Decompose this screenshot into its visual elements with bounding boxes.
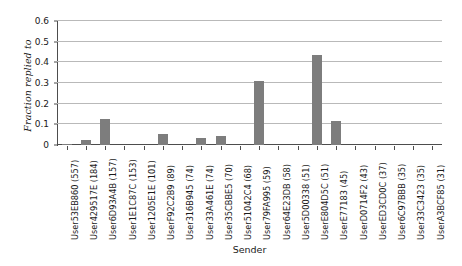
y-tick-label: 0.1 (17, 119, 49, 129)
x-tick-mark (67, 146, 68, 150)
y-tick-label: 0.2 (17, 99, 49, 109)
x-tick-label: UserE77183 (45) (339, 152, 349, 240)
bar (331, 121, 341, 145)
x-tick-label: User35CBBE5 (70) (224, 152, 234, 240)
x-tick-label: User64E23DB (58) (282, 152, 292, 240)
x-tick-label: UserE804D5C (51) (320, 152, 330, 240)
x-tick-label: User1E1C87C (153) (128, 152, 138, 240)
x-tick-mark (124, 146, 125, 150)
x-tick-label: User33A461E (74) (205, 152, 215, 240)
x-tick-mark (394, 146, 395, 150)
x-tick-label: User6C97BBB (35) (397, 152, 407, 240)
y-tick-label: 0.6 (17, 16, 49, 26)
bar (158, 134, 168, 145)
x-axis-title: Sender (57, 244, 442, 255)
x-tick-mark (163, 146, 164, 150)
x-tick-mark (144, 146, 145, 150)
y-tick-label: 0 (17, 140, 49, 150)
x-tick-label: UserA3BCF85 (31) (436, 152, 446, 240)
x-tick-mark (432, 146, 433, 150)
x-tick-label: User5D00338 (51) (301, 152, 311, 240)
x-tick-mark (259, 146, 260, 150)
bar-series (57, 21, 442, 145)
x-tick-mark (317, 146, 318, 150)
x-tick-mark (182, 146, 183, 150)
x-tick-label: User51042C4 (68) (243, 152, 253, 240)
bar (62, 144, 72, 145)
x-tick-mark (355, 146, 356, 150)
x-tick-label: User316B945 (74) (185, 152, 195, 240)
x-axis-ticks-and-labels: User53EB860 (557)User429517E (184)User6D… (57, 146, 442, 246)
x-tick-label: User33C3423 (35) (416, 152, 426, 240)
x-tick-label: User429517E (184) (89, 152, 99, 240)
bar (216, 136, 226, 145)
bar (254, 81, 264, 145)
x-tick-label: User53EB860 (557) (70, 152, 80, 240)
x-tick-label: User79FA995 (59) (262, 152, 272, 240)
x-tick-mark (221, 146, 222, 150)
bar (312, 55, 322, 145)
bar-chart-figure: Fraction replied to 00.10.20.30.40.50.6 … (0, 0, 462, 266)
x-tick-mark (278, 146, 279, 150)
x-tick-label: User1205E1E (101) (147, 152, 157, 240)
x-tick-mark (105, 146, 106, 150)
bar (196, 138, 206, 145)
x-tick-mark (86, 146, 87, 150)
y-tick-label: 0.3 (17, 78, 49, 88)
x-tick-mark (201, 146, 202, 150)
x-tick-mark (375, 146, 376, 150)
bar (81, 140, 91, 145)
x-tick-label: UserF92C2B9 (89) (166, 152, 176, 240)
bar (100, 119, 110, 145)
x-tick-label: UserD0714F2 (43) (359, 152, 369, 240)
x-tick-mark (413, 146, 414, 150)
x-tick-mark (336, 146, 337, 150)
x-tick-mark (240, 146, 241, 150)
plot-area (57, 21, 442, 145)
x-tick-mark (298, 146, 299, 150)
x-tick-label: User6D93A4B (157) (108, 152, 118, 240)
y-tick-label: 0.4 (17, 57, 49, 67)
y-tick-label: 0.5 (17, 37, 49, 47)
y-axis-ticks: 00.10.20.30.40.50.6 (0, 21, 57, 146)
x-tick-label: UserED3CD0C (37) (378, 152, 388, 240)
